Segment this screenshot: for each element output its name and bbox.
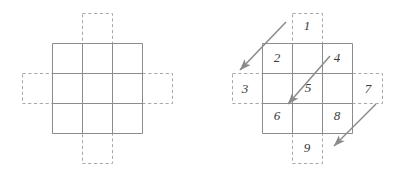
right-panel-label-9: 9 [304, 140, 311, 155]
right-panel-label-5: 5 [305, 80, 312, 95]
right-panel-label-3: 3 [241, 81, 249, 96]
right-panel-label-1: 1 [304, 18, 311, 33]
right-panel-label-7: 7 [365, 81, 372, 96]
figure-root: 123456789 [0, 0, 400, 177]
left-panel-ghost-left [23, 74, 53, 104]
left-panel-ghost-bottom [83, 134, 113, 164]
right-panel-label-2: 2 [274, 50, 281, 65]
right-panel: 123456789 [233, 14, 383, 164]
figure-canvas: 123456789 [0, 0, 400, 177]
left-panel-ghost-top [83, 14, 113, 44]
right-panel-label-6: 6 [274, 108, 281, 123]
right-panel-arrow-bottom-right [334, 104, 376, 146]
right-panel-arrow-middle [288, 56, 330, 104]
left-panel-grid [53, 44, 143, 134]
left-panel [23, 14, 173, 164]
right-panel-label-4: 4 [334, 50, 341, 65]
right-panel-label-8: 8 [334, 108, 341, 123]
left-panel-ghost-right [143, 74, 173, 104]
